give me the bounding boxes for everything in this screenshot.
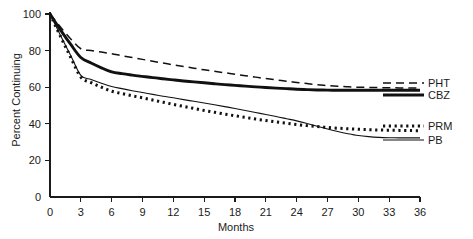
legend-label-cbz: CBZ [428,89,450,101]
x-tick-label: 9 [139,206,145,218]
x-tick-label: 30 [352,206,364,218]
y-tick-label: 80 [29,45,41,57]
x-tick-label: 36 [414,206,426,218]
x-tick-label: 24 [291,206,303,218]
y-axis-group: 020406080100 [23,8,50,203]
series-group [50,14,420,138]
x-tick-label: 27 [321,206,333,218]
y-axis-title: Percent Continuing [10,53,22,147]
chart-figure: 020406080100 0369121518212427303336 PHTC… [0,0,473,239]
y-tick-label: 40 [29,118,41,130]
x-tick-label: 18 [229,206,241,218]
series-line-prm [50,14,420,131]
y-tick-group: 020406080100 [23,8,50,203]
x-axis-title: Months [218,221,255,233]
x-tick-label: 21 [260,206,272,218]
x-tick-label: 12 [167,206,179,218]
y-tick-label: 60 [29,81,41,93]
x-tick-label: 3 [78,206,84,218]
x-axis-group: 0369121518212427303336 [47,197,426,218]
x-tick-label: 6 [109,206,115,218]
x-tick-group: 0369121518212427303336 [47,197,426,218]
y-tick-label: 0 [35,191,41,203]
x-tick-label: 15 [198,206,210,218]
legend-label-pht: PHT [428,77,450,89]
series-line-pht [50,14,420,88]
legend-label-pb: PB [428,134,443,146]
line-chart-canvas: 020406080100 0369121518212427303336 PHTC… [0,0,473,239]
x-tick-label: 33 [383,206,395,218]
y-tick-label: 100 [23,8,41,20]
x-tick-label: 0 [47,206,53,218]
series-line-pb [50,14,420,138]
y-tick-label: 20 [29,154,41,166]
chart-legend: PHTCBZPRMPB [383,77,452,146]
legend-label-prm: PRM [428,120,452,132]
